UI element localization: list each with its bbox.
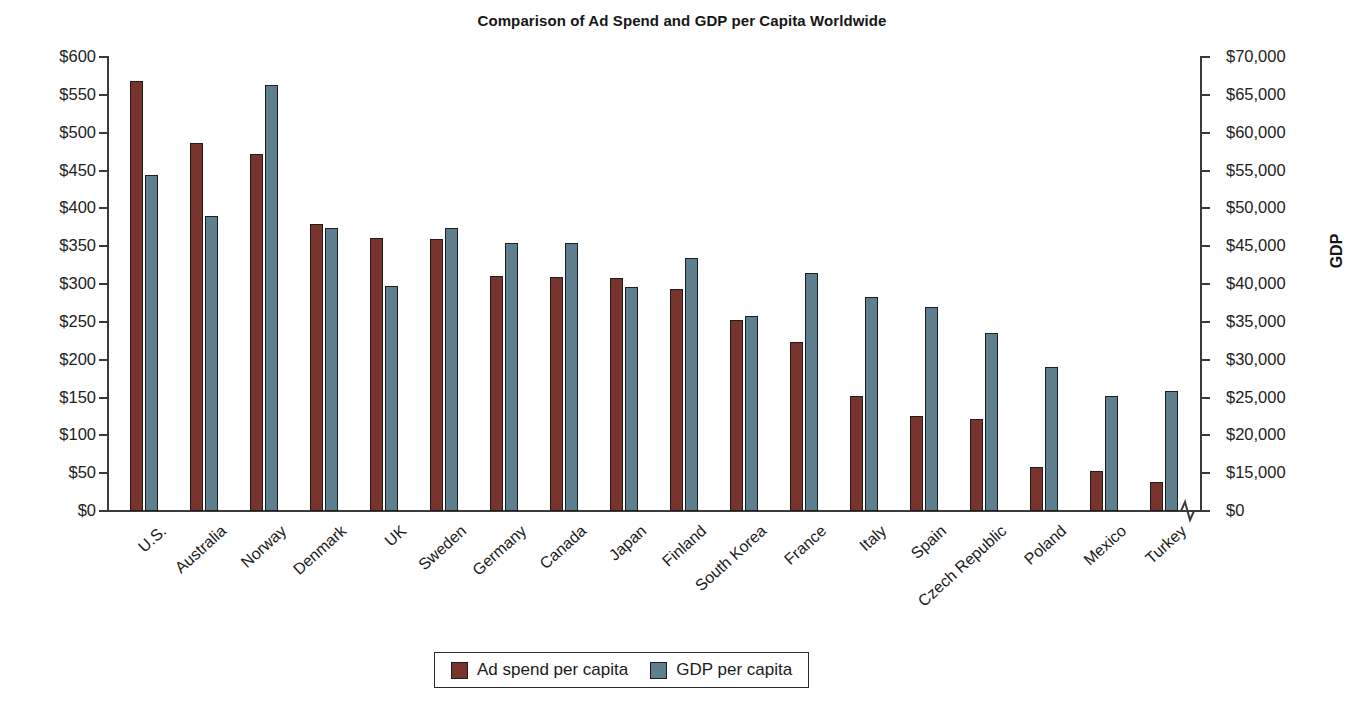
bar-gdp[interactable] [265, 85, 278, 511]
x-axis-label: Finland [659, 522, 710, 570]
legend-item-gdp[interactable]: GDP per capita [650, 660, 792, 680]
x-axis-label: Denmark [290, 522, 350, 579]
legend-item-ad-spend[interactable]: Ad spend per capita [451, 660, 628, 680]
y-tick-mark-right [1201, 170, 1210, 172]
bar-ad-spend[interactable] [370, 238, 383, 511]
bar-gdp[interactable] [985, 333, 998, 511]
bar-group [714, 57, 774, 511]
x-axis-label: Italy [856, 522, 890, 555]
y-tick-mark-left [99, 94, 108, 96]
bar-ad-spend[interactable] [190, 143, 203, 511]
y-tick-right: $45,000 [1226, 237, 1286, 254]
bar-group [774, 57, 834, 511]
bar-ad-spend[interactable] [1150, 482, 1163, 512]
y-tick-mark-left [99, 510, 108, 512]
bar-gdp[interactable] [565, 243, 578, 511]
chart-title: Comparison of Ad Spend and GDP per Capit… [0, 12, 1364, 29]
y-tick-mark-left [99, 434, 108, 436]
y-tick-right: $20,000 [1226, 426, 1286, 443]
y-tick-mark-right [1201, 397, 1210, 399]
bar-ad-spend[interactable] [910, 416, 923, 511]
bar-ad-spend[interactable] [490, 276, 503, 511]
bar-group [594, 57, 654, 511]
bar-gdp[interactable] [445, 228, 458, 511]
bar-gdp[interactable] [205, 216, 218, 511]
bar-group [414, 57, 474, 511]
y-tick-mark-left [99, 472, 108, 474]
y-tick-mark-left [99, 207, 108, 209]
y-tick-mark-right [1201, 510, 1210, 512]
bar-group [114, 57, 174, 511]
bar-gdp[interactable] [745, 316, 758, 511]
bar-ad-spend[interactable] [610, 278, 623, 511]
bar-gdp[interactable] [925, 307, 938, 511]
y-tick-mark-right [1201, 434, 1210, 436]
bar-gdp[interactable] [805, 273, 818, 511]
y-tick-mark-right [1201, 283, 1210, 285]
bar-gdp[interactable] [385, 286, 398, 511]
y-tick-right: $35,000 [1226, 313, 1286, 330]
x-axis-label: Sweden [415, 522, 470, 574]
bar-group [474, 57, 534, 511]
y-tick-right: $60,000 [1226, 124, 1286, 141]
bar-ad-spend[interactable] [310, 224, 323, 511]
bar-group [174, 57, 234, 511]
bar-ad-spend[interactable] [550, 277, 563, 511]
bar-ad-spend[interactable] [430, 239, 443, 511]
bar-gdp[interactable] [145, 175, 158, 511]
y-tick-right: $25,000 [1226, 389, 1286, 406]
bar-gdp[interactable] [685, 258, 698, 511]
bar-gdp[interactable] [1105, 396, 1118, 511]
bar-ad-spend[interactable] [790, 342, 803, 511]
y-tick-mark-right [1201, 207, 1210, 209]
y-tick-mark-left [99, 321, 108, 323]
bar-ad-spend[interactable] [850, 396, 863, 511]
y-tick-mark-right [1201, 359, 1210, 361]
y-tick-mark-left [99, 245, 108, 247]
y-tick-mark-left [99, 56, 108, 58]
y-tick-mark-right [1201, 132, 1210, 134]
y-tick-left: $350 [59, 237, 96, 254]
x-axis-label: Japan [606, 522, 650, 565]
bar-ad-spend[interactable] [730, 320, 743, 511]
bar-group [354, 57, 414, 511]
bar-gdp[interactable] [865, 297, 878, 511]
y-tick-left: $450 [59, 162, 96, 179]
bar-gdp[interactable] [325, 228, 338, 511]
x-axis-label: Norway [238, 522, 290, 572]
y-tick-right: $0 [1226, 502, 1244, 519]
bar-gdp[interactable] [625, 287, 638, 511]
bar-ad-spend[interactable] [670, 289, 683, 511]
y-tick-right: $40,000 [1226, 275, 1286, 292]
x-axis-category-labels: U.S.AustraliaNorwayDenmarkUKSwedenGerman… [114, 516, 1194, 626]
legend-label-ad-spend: Ad spend per capita [477, 660, 628, 680]
plot-area [114, 57, 1194, 511]
bar-gdp[interactable] [1045, 367, 1058, 511]
legend-swatch-gdp [650, 662, 667, 679]
y-tick-mark-left [99, 397, 108, 399]
bar-group [234, 57, 294, 511]
y-axis-right-title: GDP [1328, 216, 1346, 286]
y-tick-left: $300 [59, 275, 96, 292]
bar-gdp[interactable] [505, 243, 518, 511]
bar-ad-spend[interactable] [1030, 467, 1043, 511]
bar-group [894, 57, 954, 511]
bar-group [954, 57, 1014, 511]
y-tick-left: $400 [59, 199, 96, 216]
y-tick-left: $0 [78, 502, 96, 519]
x-axis-label: Spain [908, 522, 950, 563]
y-tick-mark-right [1201, 245, 1210, 247]
bar-gdp[interactable] [1165, 391, 1178, 511]
bar-ad-spend[interactable] [1090, 471, 1103, 511]
bar-ad-spend[interactable] [250, 154, 263, 511]
bar-group [834, 57, 894, 511]
bar-ad-spend[interactable] [130, 81, 143, 511]
y-tick-mark-left [99, 170, 108, 172]
y-tick-right: $65,000 [1226, 86, 1286, 103]
y-tick-mark-right [1201, 94, 1210, 96]
x-axis-label: U.S. [135, 522, 170, 556]
y-tick-right: $55,000 [1226, 162, 1286, 179]
bar-group [534, 57, 594, 511]
legend-label-gdp: GDP per capita [676, 660, 792, 680]
bar-ad-spend[interactable] [970, 419, 983, 511]
